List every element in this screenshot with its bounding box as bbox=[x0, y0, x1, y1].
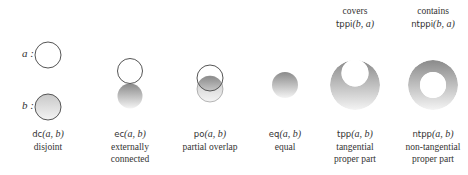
eq-figure bbox=[272, 72, 298, 98]
tpp-description-line1: tangential bbox=[336, 141, 373, 153]
region-b bbox=[35, 94, 61, 120]
ntpp-figure bbox=[408, 60, 458, 110]
ntppi-relation: ntppi(b, a) bbox=[411, 18, 455, 30]
dc-description: disjoint bbox=[34, 141, 63, 153]
ec-description-line1: externally bbox=[111, 141, 149, 153]
ec-description-line2: connected bbox=[111, 153, 150, 165]
ntpp-description-line2: proper part bbox=[412, 153, 454, 165]
ec-figure bbox=[118, 59, 143, 109]
eq-description: equal bbox=[275, 141, 296, 153]
region-a bbox=[118, 59, 143, 84]
region-a bbox=[342, 60, 369, 87]
label-a: a : bbox=[22, 47, 34, 59]
eq-relation: eq(a, b) bbox=[269, 128, 301, 140]
dc-relation: dc(a, b) bbox=[32, 128, 64, 140]
tppi-relation: tppi(b, a) bbox=[336, 18, 374, 30]
relation-name: tppi bbox=[336, 19, 353, 29]
ec-relation: ec(a, b) bbox=[114, 128, 146, 140]
tpp-figure bbox=[330, 60, 380, 111]
region-b bbox=[118, 84, 143, 109]
region-ab bbox=[272, 72, 298, 98]
relation-args: (b, a) bbox=[352, 18, 374, 29]
ntpp-description-line1: non-tangential bbox=[406, 141, 461, 153]
po-figure bbox=[197, 65, 223, 102]
relation-name: ntppi bbox=[411, 19, 433, 29]
region-a bbox=[420, 72, 446, 98]
po-relation: po(a, b) bbox=[194, 128, 226, 140]
po-description: partial overlap bbox=[182, 141, 237, 153]
ntpp-relation: ntpp(a, b) bbox=[412, 128, 453, 140]
tppi-caption: covers bbox=[343, 5, 368, 17]
ntppi-caption: contains bbox=[417, 5, 449, 17]
tpp-description-line2: proper part bbox=[334, 153, 376, 165]
tpp-relation: tpp(a, b) bbox=[337, 128, 373, 140]
region-a bbox=[35, 42, 61, 68]
label-b: b : bbox=[22, 99, 34, 111]
relation-args: (b, a) bbox=[433, 18, 455, 29]
dc-figure bbox=[35, 42, 61, 120]
